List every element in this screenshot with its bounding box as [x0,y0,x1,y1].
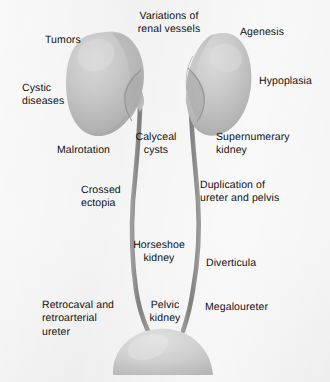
label-calyceal-cysts: Calyceal cysts [135,131,176,158]
kidney-anomalies-figure: Tumors Variations of renal vessels Agene… [0,0,330,382]
label-malrotation: Malrotation [57,144,110,157]
label-supernumerary-kidney: Supernumerary kidney [216,131,290,158]
label-agenesis: Agenesis [240,26,284,39]
label-retrocaval-and-retroarterial-ureter: Retrocaval and retroarterial ureter [42,299,114,339]
label-diverticula: Diverticula [206,257,256,270]
label-pelvic-kidney: Pelvic kidney [150,299,181,326]
label-variations-of-renal-vessels: Variations of renal vessels [138,10,201,37]
right-ureter [183,110,199,331]
label-crossed-ectopia: Crossed ectopia [81,184,121,211]
right-kidney [186,33,252,136]
label-megaloureter: Megaloureter [205,301,268,314]
label-horseshoe-kidney: Horseshoe kidney [133,239,185,266]
label-tumors: Tumors [45,34,81,47]
bladder [113,329,213,375]
label-hypoplasia: Hypoplasia [259,75,312,88]
label-cystic-diseases: Cystic diseases [22,82,64,109]
label-duplication-of-ureter-and-pelvis: Duplication of ureter and pelvis [200,179,279,206]
